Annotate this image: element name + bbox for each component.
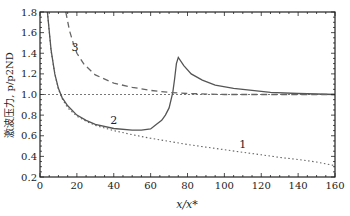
y-axis-title: 激波压力, p/p2ND	[3, 52, 15, 138]
y-tick-label: 0.6	[21, 130, 37, 141]
x-tick-label: 60	[144, 180, 157, 191]
plot-area: 123	[40, 12, 335, 166]
series-1-line	[47, 12, 335, 166]
y-tick-label: 0.2	[21, 172, 37, 183]
x-tick-label: 160	[325, 180, 344, 191]
x-tick-label: 140	[289, 180, 308, 191]
axes: 0204060801001201401600.20.40.60.81.01.21…	[21, 7, 344, 192]
series-3-line	[66, 12, 335, 95]
y-tick-label: 1.6	[21, 27, 37, 38]
x-tick-label: 120	[252, 180, 271, 191]
x-tick-label: 20	[71, 180, 84, 191]
x-tick-label: 40	[107, 180, 120, 191]
y-tick-label: 1.0	[21, 89, 37, 100]
curve-label-2: 2	[110, 114, 117, 127]
shock-pressure-chart: 123 0204060801001201401600.20.40.60.81.0…	[0, 0, 350, 216]
y-tick-label: 1.8	[21, 7, 37, 18]
curve-label-3: 3	[72, 41, 79, 54]
x-tick-label: 80	[181, 180, 194, 191]
curve-label-1: 1	[239, 138, 246, 151]
x-tick-label: 0	[37, 180, 43, 191]
x-tick-label: 100	[215, 180, 234, 191]
x-axis-title: x/x*	[176, 198, 198, 211]
y-tick-label: 1.2	[21, 68, 37, 79]
y-tick-label: 1.4	[21, 48, 37, 59]
y-tick-label: 0.8	[21, 110, 37, 121]
y-tick-label: 0.4	[21, 151, 37, 162]
